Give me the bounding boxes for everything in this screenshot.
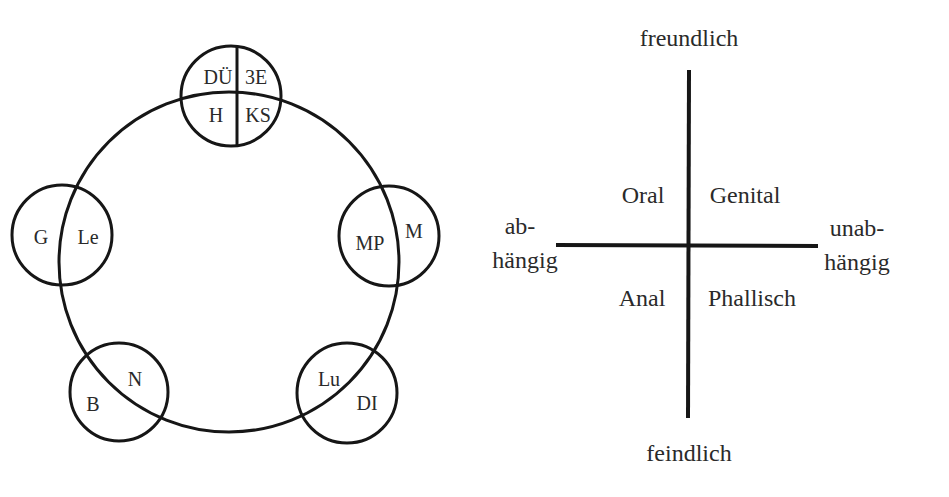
label-g: G: [34, 226, 48, 248]
quadrant-anal: Anal: [619, 285, 666, 311]
label-b: B: [86, 393, 99, 415]
bottom-right-circle-group: Lu DI: [297, 343, 397, 443]
label-le: Le: [77, 226, 98, 248]
horizontal-axis: [556, 245, 818, 246]
label-n: N: [128, 368, 142, 390]
label-di: DI: [356, 392, 377, 414]
axis-label-top: freundlich: [640, 25, 739, 51]
circle-diagram: DÜ 3E H KS G Le MP M B N Lu DI: [12, 46, 439, 443]
label-lu: Lu: [318, 368, 340, 390]
quadrant-oral: Oral: [622, 182, 665, 208]
axis-label-left-1: ab-: [505, 213, 536, 239]
label-mp: MP: [356, 232, 385, 254]
quadrant-phallisch: Phallisch: [708, 285, 796, 311]
label-du: DÜ: [204, 66, 233, 88]
label-h: H: [209, 104, 223, 126]
axis-label-left-2: hängig: [492, 247, 557, 273]
label-m: M: [405, 220, 423, 242]
bottom-right-circle: [297, 343, 397, 443]
axis-label-bottom: feindlich: [646, 440, 731, 466]
axis-label-right-1: unab-: [830, 215, 885, 241]
quadrant-diagram: freundlich feindlich ab- hängig unab- hä…: [492, 25, 889, 466]
quadrant-genital: Genital: [710, 182, 781, 208]
diagram-canvas: DÜ 3E H KS G Le MP M B N Lu DI: [0, 0, 949, 497]
label-3e: 3E: [245, 66, 267, 88]
label-ks: KS: [245, 104, 271, 126]
axis-label-right-2: hängig: [824, 249, 889, 275]
